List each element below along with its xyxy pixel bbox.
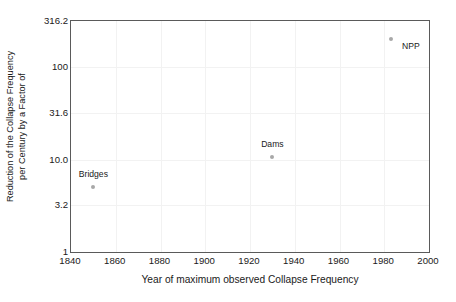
gridline-horizontal <box>71 205 429 206</box>
y-axis-title: Reduction of the Collapse Frequency per … <box>0 0 34 253</box>
x-axis-tick-labels: 184018601880190019201940196019802000 <box>70 255 430 269</box>
y-axis-tick-label: 316.2 <box>32 15 68 26</box>
data-point[interactable] <box>270 155 274 159</box>
x-axis-tick-label: 1940 <box>283 255 304 266</box>
x-axis-tick-label: 1920 <box>238 255 259 266</box>
scatter-chart-figure: Reduction of the Collapse Frequency per … <box>0 0 456 302</box>
x-axis-tick-label: 1840 <box>59 255 80 266</box>
data-point-label: Dams <box>261 139 283 149</box>
x-axis-tick-label: 1960 <box>328 255 349 266</box>
gridline-vertical <box>384 21 385 252</box>
gridline-vertical <box>116 21 117 252</box>
gridline-vertical <box>205 21 206 252</box>
x-axis-tick-label: 1880 <box>149 255 170 266</box>
data-point-label: Bridges <box>79 169 108 179</box>
gridline-horizontal <box>71 113 429 114</box>
x-axis-tick-label: 1900 <box>194 255 215 266</box>
gridline-vertical <box>161 21 162 252</box>
x-axis-tick-label: 1980 <box>373 255 394 266</box>
gridline-horizontal <box>71 160 429 161</box>
y-axis-title-line1: Reduction of the Collapse Frequency <box>6 51 16 202</box>
x-axis-title: Year of maximum observed Collapse Freque… <box>70 274 430 285</box>
gridline-vertical <box>340 21 341 252</box>
data-point[interactable] <box>91 185 95 189</box>
gridline-horizontal <box>71 67 429 68</box>
data-point[interactable] <box>389 37 393 41</box>
y-axis-tick-label: 100 <box>32 61 68 72</box>
x-axis-tick-label: 1860 <box>104 255 125 266</box>
x-axis-tick-label: 2000 <box>417 255 438 266</box>
y-axis-tick-label: 3.2 <box>32 199 68 210</box>
y-axis-tick-label: 31.6 <box>32 107 68 118</box>
gridline-vertical <box>295 21 296 252</box>
gridline-vertical <box>250 21 251 252</box>
y-axis-title-line2: per Century by a Factor of <box>17 51 29 202</box>
plot-area: BridgesDamsNPP <box>70 20 430 253</box>
y-axis-tick-label: 10.0 <box>32 153 68 164</box>
data-point-label: NPP <box>402 41 420 51</box>
